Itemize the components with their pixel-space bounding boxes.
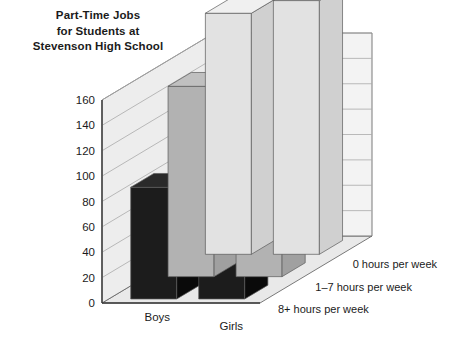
bar-side-face: [251, 0, 274, 254]
bar-front-face: [273, 1, 319, 255]
bar-side-face: [319, 0, 342, 254]
y-axis-tick-label: 100: [76, 170, 95, 182]
series-label-1: 1–7 hours per week: [315, 281, 412, 293]
y-axis-tick-label: 120: [76, 145, 95, 157]
y-axis-tick-label: 20: [82, 272, 95, 284]
y-axis-tick-label: 60: [82, 221, 95, 233]
series-label-0: 0 hours per week: [353, 258, 438, 270]
series-label-2: 8+ hours per week: [278, 303, 369, 315]
y-axis-tick-label: 160: [76, 94, 95, 106]
chart-3d-bar: Part-Time Jobs for Students at Stevenson…: [0, 0, 470, 356]
category-label-boys: Boys: [144, 311, 170, 323]
y-axis-tick-label: 0: [89, 297, 95, 309]
y-axis-tick-label: 40: [82, 246, 95, 258]
y-axis-tick-label: 80: [82, 196, 95, 208]
plot-area: 020406080100120140160BoysGirls0 hours pe…: [0, 0, 470, 356]
y-axis-tick-label: 140: [76, 119, 95, 131]
bar-front-face: [205, 13, 251, 254]
category-label-girls: Girls: [219, 320, 243, 332]
